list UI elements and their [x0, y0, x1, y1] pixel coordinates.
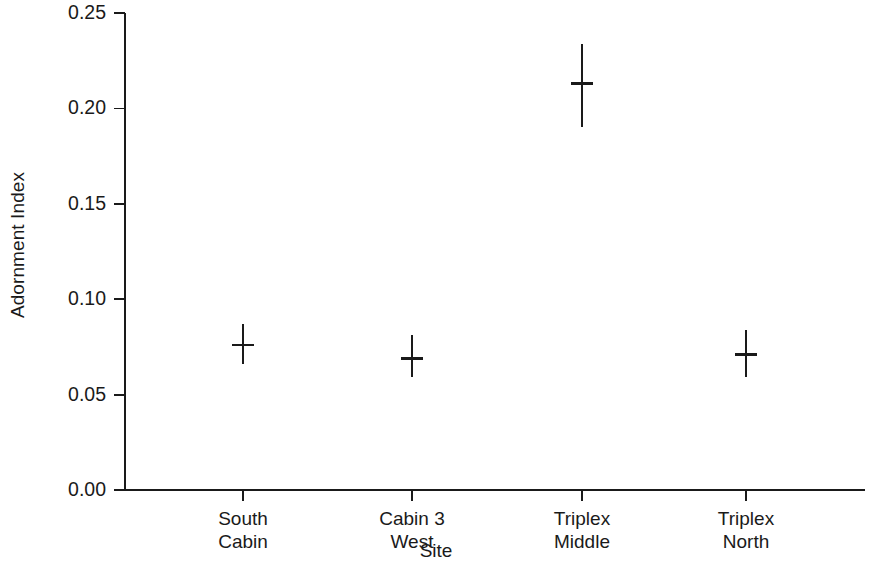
x-axis-tick-label-2-line1: Triplex — [554, 508, 610, 529]
data-markers — [232, 44, 757, 378]
axes — [114, 13, 865, 501]
data-point-1 — [401, 335, 423, 377]
x-axis-tick-label-1-line1: Cabin 3 — [379, 508, 445, 529]
data-point-3 — [735, 330, 757, 378]
data-point-2 — [571, 44, 593, 128]
x-axis-tick-label-0-line1: South — [218, 508, 268, 529]
x-axis-title: Site — [0, 540, 872, 562]
adornment-index-chart: Adornment Index 0.000.050.100.150.200.25… — [0, 0, 872, 568]
x-axis-tick-label-3-line1: Triplex — [718, 508, 774, 529]
data-point-0 — [232, 324, 254, 364]
plot-area — [0, 0, 872, 568]
